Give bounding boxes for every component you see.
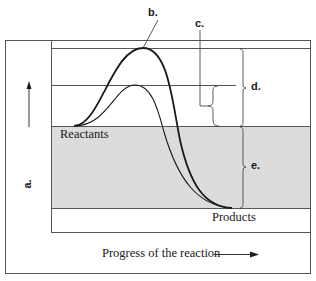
reactants-label: Reactants [60,127,109,142]
label-c: c. [195,17,204,29]
products-label: Products [212,210,256,225]
y-axis-arrow-head-icon [27,81,32,89]
energy-diagram: b. c. d. e. a. Reactants Products Progre… [0,0,316,281]
brace-c [208,86,219,126]
label-d: d. [251,80,261,92]
diagram-canvas [0,0,316,281]
label-b-leader [143,20,158,48]
x-axis-arrow-head-icon [250,252,259,258]
label-a-y-axis: a. [21,179,33,188]
x-axis-label: Progress of the reaction [102,246,220,261]
label-e: e. [251,159,260,171]
label-b: b. [148,6,158,18]
label-c-leader [200,30,208,106]
brace-d [240,49,246,126]
